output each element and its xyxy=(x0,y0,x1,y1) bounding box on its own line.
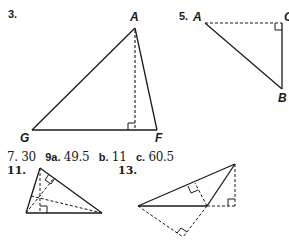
answer-7-label: 7. xyxy=(7,150,18,164)
figure-3-triangle xyxy=(32,28,157,130)
figure-11-number: 11. xyxy=(7,164,26,177)
vertex-label-a: A xyxy=(130,10,139,24)
vertex-label-c: C xyxy=(284,10,289,24)
vertex-label-a: A xyxy=(193,10,202,24)
figure-11-triangle xyxy=(26,168,102,213)
answer-9c-label: c. xyxy=(136,151,145,163)
answer-9a-value: 49.5 xyxy=(64,150,90,164)
vertex-label-g: G xyxy=(20,131,29,145)
figures-canvas xyxy=(0,0,289,240)
figure-5-triangle xyxy=(205,23,282,89)
vertex-label-b: B xyxy=(278,91,287,105)
answer-9b-value: 11 xyxy=(112,150,127,164)
answer-9c-value: 60.5 xyxy=(148,150,174,164)
answer-line: 7. 30 9a. 49.5 b. 11 c. 60.5 xyxy=(7,150,180,164)
figure-3-number: 3. xyxy=(8,8,17,20)
figure-13-triangle xyxy=(138,164,235,237)
answer-9b-label: b. xyxy=(99,151,109,163)
figure-13-number: 13. xyxy=(118,164,137,177)
answer-9a-label: 9a. xyxy=(45,151,60,163)
vertex-label-f: F xyxy=(155,131,162,145)
answer-7-value: 30 xyxy=(21,150,36,164)
figure-5-number: 5. xyxy=(179,10,188,22)
